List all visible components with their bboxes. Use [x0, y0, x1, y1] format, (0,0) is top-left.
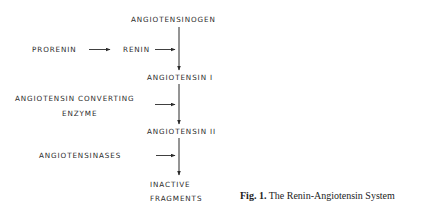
- enzyme-prorenin: PRORENIN: [32, 46, 77, 53]
- enzyme-renin: RENIN: [123, 46, 150, 53]
- node-inactive-fragments-line2: FRAGMENTS: [150, 195, 202, 202]
- figure-caption-label: Fig. 1.: [240, 190, 266, 201]
- enzyme-angiotensinases: ANGIOTENSINASES: [39, 152, 121, 159]
- node-angiotensinogen: ANGIOTENSINOGEN: [131, 16, 216, 23]
- enzyme-ace-line2: ENZYME: [62, 110, 97, 117]
- node-inactive-fragments-line1: INACTIVE: [150, 181, 190, 188]
- figure-caption: Fig. 1. The Renin-Angiotensin System: [240, 191, 395, 201]
- node-angiotensin-i: ANGIOTENSIN I: [147, 74, 213, 81]
- enzyme-ace-line1: ANGIOTENSIN CONVERTING: [15, 95, 135, 102]
- figure-caption-text: The Renin-Angiotensin System: [266, 190, 394, 201]
- node-angiotensin-ii: ANGIOTENSIN II: [147, 128, 216, 135]
